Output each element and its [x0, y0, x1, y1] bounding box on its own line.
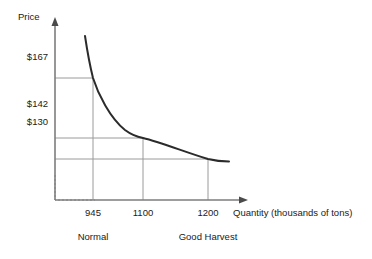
- x-tick-label-1100: 1100: [123, 208, 163, 218]
- x-axis-title: Quantity (thousands of tons): [233, 208, 352, 218]
- y-tick-label-142: $142: [14, 99, 48, 109]
- origin-break-dashed: [55, 175, 95, 200]
- y-tick-label-130: $130: [14, 117, 48, 127]
- demand-curve: [85, 36, 229, 162]
- x-axis-arrow-icon: [239, 197, 248, 204]
- category-label-good-harvest: Good Harvest: [168, 232, 248, 242]
- category-label-normal: Normal: [68, 232, 118, 242]
- chart-canvas: [0, 0, 372, 259]
- x-tick-label-945: 945: [73, 208, 113, 218]
- supply-demand-chart: Price $167 $142 $130 945 1100 1200 Quant…: [0, 0, 372, 259]
- y-axis-arrow-icon: [52, 17, 59, 26]
- x-tick-label-1200: 1200: [188, 208, 228, 218]
- y-axis-title: Price: [18, 12, 40, 22]
- y-tick-label-167: $167: [14, 52, 48, 62]
